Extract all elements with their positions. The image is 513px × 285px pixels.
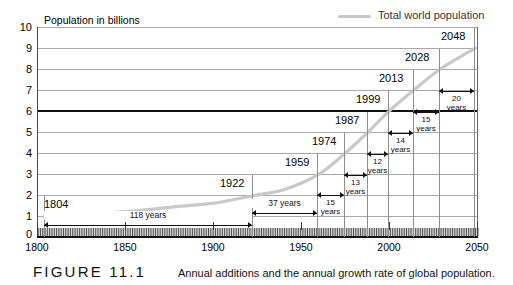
y-tick-2: 2 (12, 190, 32, 201)
interval-20-unit: years (439, 104, 474, 113)
y-tick-4: 4 (12, 148, 32, 159)
interval-15b-unit: years (413, 125, 439, 134)
figure-caption: Annual additions and the annual growth r… (178, 267, 495, 279)
interval-20-years: 20 years (439, 88, 474, 112)
interval-37-years: 37 years (252, 210, 317, 217)
y-axis-title: Population in billions (44, 14, 140, 26)
milestone-label-2028: 2028 (405, 52, 429, 63)
y-tick-5: 5 (12, 127, 32, 138)
interval-15-years-1959-1974: 15 years (317, 192, 344, 216)
interval-13-unit: years (344, 188, 367, 197)
milestone-drop-2048 (474, 28, 475, 237)
milestone-drop-1999 (388, 91, 389, 237)
interval-37-years-label: 37 years (252, 199, 317, 208)
y-tick-6: 6 (12, 106, 32, 117)
y-tick-9: 9 (12, 43, 32, 54)
y-tick-10: 10 (12, 22, 32, 33)
y-tick-0: 0 (12, 229, 32, 240)
y-tick-3: 3 (12, 169, 32, 180)
milestone-label-1959: 1959 (285, 157, 309, 168)
interval-12-years: 12 years (367, 151, 388, 175)
interval-14-years: 14 years (388, 130, 413, 154)
milestone-label-1974: 1974 (312, 136, 336, 147)
x-tick-1850: 1850 (105, 242, 145, 252)
y-tick-8: 8 (12, 64, 32, 75)
milestone-drop-2013 (413, 70, 414, 237)
x-tick-1950: 1950 (281, 242, 321, 252)
milestone-label-2013: 2013 (379, 73, 403, 84)
x-tick-1800: 1800 (17, 242, 57, 252)
legend-swatch-line (338, 15, 371, 18)
interval-14-unit: years (388, 146, 413, 155)
y-tick-1: 1 (12, 211, 32, 222)
milestone-label-2048: 2048 (441, 31, 465, 42)
figure-number: FIGURE 11.1 (33, 263, 146, 280)
interval-15-unit: years (317, 208, 344, 217)
interval-13-years: 13 years (344, 172, 367, 196)
interval-12-unit: years (367, 167, 388, 176)
interval-118-years: 118 years (44, 222, 252, 229)
interval-15-years-2013-2028: 15 years (413, 109, 439, 133)
figure-root: Total world population Population in bil… (0, 0, 513, 285)
y-tick-7: 7 (12, 85, 32, 96)
x-tick-2050: 2050 (457, 242, 497, 252)
legend-label: Total world population (378, 9, 484, 21)
x-tick-1900: 1900 (193, 242, 233, 252)
milestone-label-1922: 1922 (220, 178, 244, 189)
milestone-label-1999: 1999 (356, 94, 380, 105)
milestone-drop-2028 (439, 49, 440, 237)
x-tick-2000: 2000 (369, 242, 409, 252)
milestone-label-1987: 1987 (335, 115, 359, 126)
milestone-label-1804: 1804 (44, 199, 68, 210)
interval-118-years-label: 118 years (44, 211, 252, 220)
